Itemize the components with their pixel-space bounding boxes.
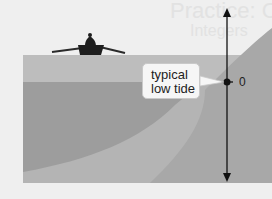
oar-right [100, 47, 125, 53]
arrow-up-icon [223, 8, 231, 17]
rower-icon [85, 36, 96, 46]
zero-point [224, 79, 231, 86]
tide-diagram [0, 0, 272, 199]
low-tide-callout: typical low tide [142, 63, 200, 99]
callout-line-2: low tide [151, 82, 199, 96]
axis-zero-label: 0 [239, 75, 246, 89]
callout-line-1: typical [151, 68, 199, 82]
boat-icon [78, 45, 104, 55]
